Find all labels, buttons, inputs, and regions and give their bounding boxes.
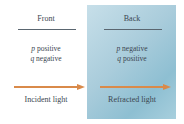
front-q-sign: q negative bbox=[6, 54, 86, 64]
back-p-sign: p negative bbox=[92, 44, 172, 54]
front-heading-rule bbox=[18, 29, 76, 30]
front-p-sign: p positive bbox=[6, 44, 86, 54]
arrow-right-icon bbox=[14, 84, 84, 90]
arrow-right-icon bbox=[100, 84, 170, 90]
back-heading: Back bbox=[92, 14, 172, 24]
front-caption: Incident light bbox=[6, 95, 86, 105]
back-heading-rule bbox=[104, 29, 162, 30]
back-q-sign: q positive bbox=[92, 54, 172, 64]
front-heading: Front bbox=[6, 14, 86, 24]
back-caption: Refracted light bbox=[92, 95, 172, 105]
